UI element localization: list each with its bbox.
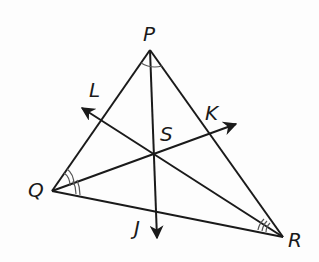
label-S: S: [160, 124, 173, 144]
diagram-canvas: P Q R S J K L: [0, 0, 319, 262]
label-J: J: [134, 218, 140, 238]
angle-mark-Q-inner2: [77, 180, 80, 195]
ray-QK: [52, 124, 236, 191]
label-K: K: [205, 103, 218, 123]
label-L: L: [89, 80, 100, 100]
label-R: R: [288, 230, 302, 250]
label-Q: Q: [28, 180, 44, 200]
label-P: P: [143, 24, 155, 44]
